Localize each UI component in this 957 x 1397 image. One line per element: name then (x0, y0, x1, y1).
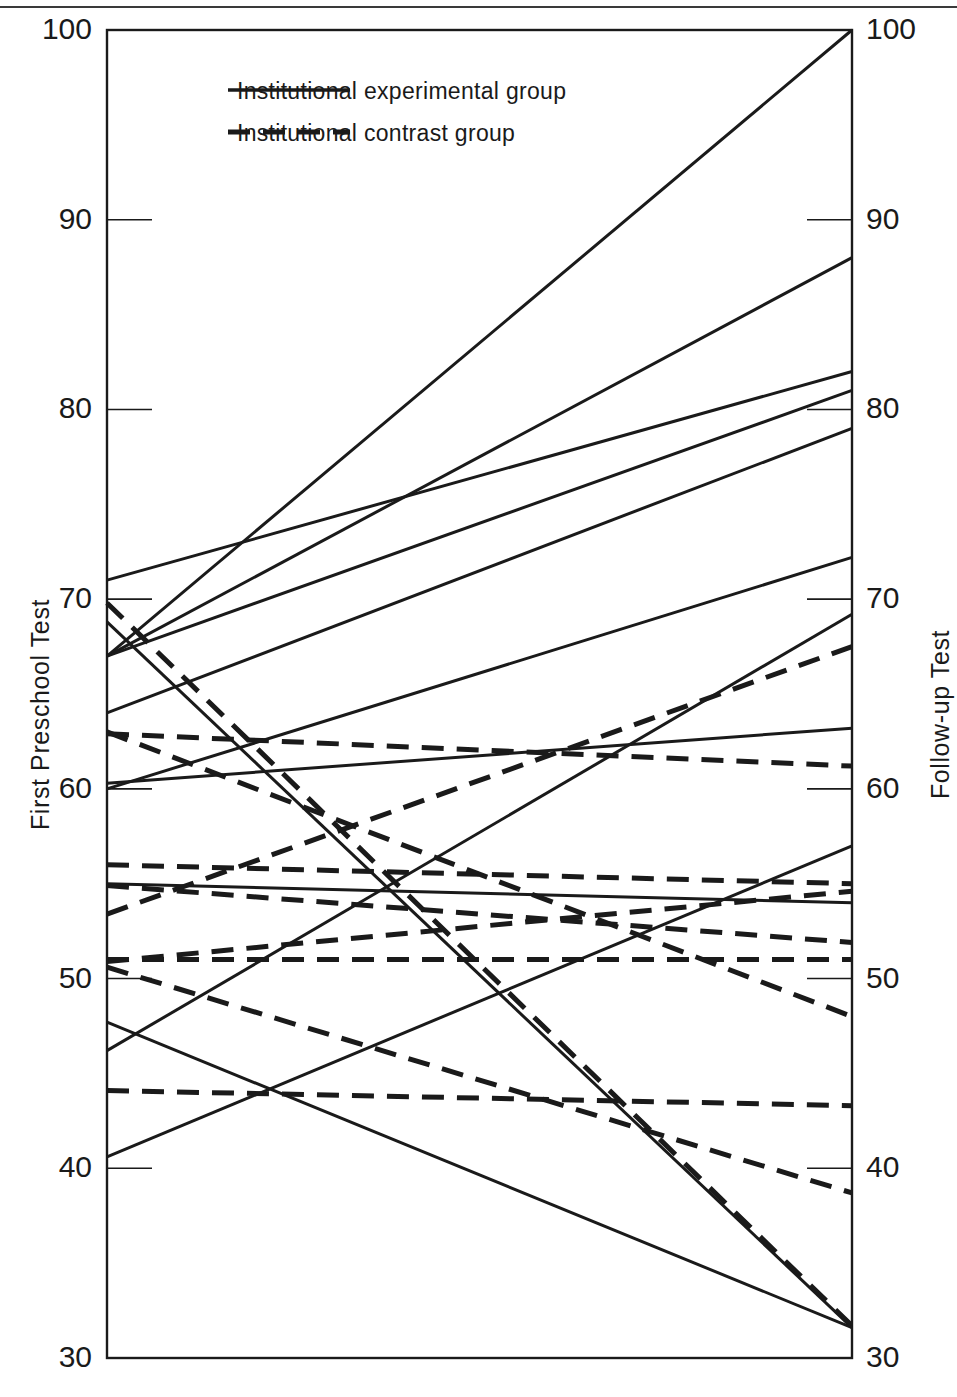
series-0-line-5 (107, 557, 852, 788)
y-tick-label-right-60: 60 (866, 773, 948, 803)
series-0-line-6 (107, 614, 852, 1050)
y-tick-label-left-30: 30 (10, 1342, 92, 1372)
y-tick-label-left-40: 40 (10, 1152, 92, 1182)
legend-label-contrast: Institutional contrast group (237, 122, 515, 145)
y-tick-label-right-70: 70 (866, 583, 948, 613)
y-tick-label-right-80: 80 (866, 393, 948, 423)
legend-label-experimental: Institutional experimental group (237, 80, 566, 103)
series-1-line-3 (107, 891, 852, 961)
y-tick-label-left-60: 60 (10, 773, 92, 803)
y-tick-label-right-50: 50 (866, 963, 948, 993)
y-tick-label-left-100: 100 (10, 14, 92, 44)
series-0-line-3 (107, 390, 852, 656)
series-0-line-4 (107, 428, 852, 713)
y-tick-label-right-30: 30 (866, 1342, 948, 1372)
series-0-line-1 (107, 258, 852, 656)
slope-chart-plot (0, 0, 957, 1397)
series-1-line-7 (107, 1091, 852, 1106)
y-tick-label-right-90: 90 (866, 204, 948, 234)
series-1-line-9 (107, 603, 852, 1326)
plot-frame (107, 30, 852, 1358)
y-tick-label-left-90: 90 (10, 204, 92, 234)
y-tick-label-left-50: 50 (10, 963, 92, 993)
y-tick-label-left-70: 70 (10, 583, 92, 613)
y-tick-label-left-80: 80 (10, 393, 92, 423)
series-0-line-2 (107, 371, 852, 580)
figure-root: First Preschool Test Follow-up Test 3040… (0, 0, 957, 1397)
series-0-line-11 (107, 1022, 852, 1327)
y-tick-label-right-40: 40 (866, 1152, 948, 1182)
series-1-line-1 (107, 734, 852, 766)
y-tick-label-right-100: 100 (866, 14, 948, 44)
